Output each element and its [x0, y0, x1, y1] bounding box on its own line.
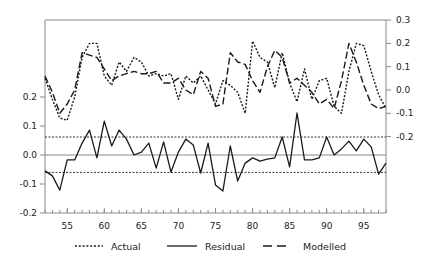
- right-tick-label: -0.2: [396, 132, 414, 142]
- left-tick-label: 0.1: [23, 121, 37, 131]
- right-tick-label: 0.3: [396, 15, 410, 25]
- legend-label-modelled: Modelled: [303, 241, 346, 252]
- left-axis-ticks: 0.20.10.0-0.1-0.2: [19, 92, 45, 218]
- x-axis-ticks: 556065707580859095: [45, 208, 386, 231]
- right-tick-label: 0.0: [396, 85, 411, 95]
- x-tick-label: 95: [358, 221, 369, 231]
- x-tick-label: 60: [99, 221, 111, 231]
- chart-legend: ActualResidualModelled: [75, 241, 346, 252]
- series-actual-line: [45, 41, 386, 120]
- x-tick-label: 75: [210, 221, 221, 231]
- x-tick-label: 70: [173, 221, 185, 231]
- series-lines: [45, 41, 386, 191]
- right-tick-label: 0.1: [396, 62, 410, 72]
- x-tick-label: 85: [284, 221, 295, 231]
- legend-label-residual: Residual: [205, 241, 245, 252]
- x-tick-label: 55: [62, 221, 73, 231]
- legend-label-actual: Actual: [111, 241, 141, 252]
- left-tick-label: -0.1: [19, 179, 37, 189]
- right-axis-ticks: 0.30.20.10.0-0.1-0.2: [386, 15, 414, 142]
- x-tick-label: 65: [136, 221, 147, 231]
- left-tick-label: -0.2: [19, 208, 37, 218]
- right-tick-label: 0.2: [396, 38, 410, 48]
- left-tick-label: 0.0: [23, 150, 38, 160]
- series-residual-line: [45, 113, 386, 191]
- x-tick-label: 90: [321, 221, 333, 231]
- chart-canvas: 556065707580859095 0.20.10.0-0.1-0.2 0.3…: [0, 0, 431, 264]
- left-tick-label: 0.2: [23, 92, 37, 102]
- right-tick-label: -0.1: [396, 108, 414, 118]
- x-tick-label: 80: [247, 221, 259, 231]
